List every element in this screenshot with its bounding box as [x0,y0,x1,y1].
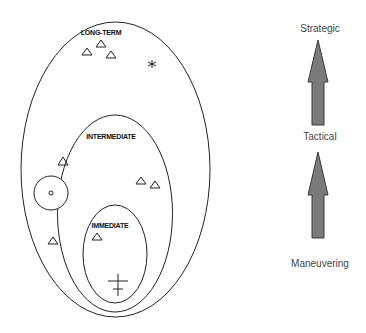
intermediate-label: INTERMEDIATE [86,133,136,140]
triangle-icon [82,48,92,55]
triangle-icon [48,237,58,244]
tactical-label: Tactical [303,131,336,142]
strategic-label: Strategic [300,23,339,34]
triangle-icon [92,233,102,240]
arrow-up-icon [308,152,328,238]
small-circle [34,176,68,210]
triangle-icon [136,177,146,184]
immediate-ellipse [83,205,147,303]
cross-icon [108,274,128,296]
star-icon [148,60,156,68]
long-term-ellipse [21,22,210,317]
triangle-icon [96,40,106,47]
triangle-icon [150,181,160,188]
immediate-label: IMMEDIATE [92,222,129,229]
intermediate-ellipse [58,115,173,312]
long-term-label: LONG-TERM [81,29,122,36]
maneuvering-label: Maneuvering [291,258,349,269]
arrow-up-icon [308,40,328,125]
diagram-canvas: LONG-TERM INTERMEDIATE IMMEDIATE Strateg… [0,0,366,333]
triangle-icon [106,51,116,58]
